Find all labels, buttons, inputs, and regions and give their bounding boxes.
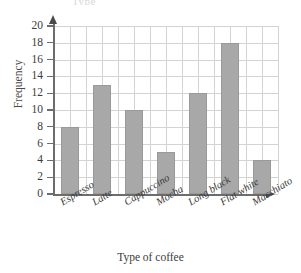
y-tick-label-wrap: 10 [19, 104, 43, 116]
gridline-vertical [150, 26, 151, 194]
y-tick-mark [47, 25, 54, 26]
y-tick-label: 12 [19, 87, 43, 99]
x-axis-title: Type of coffee [0, 251, 301, 263]
bar-chart-figure: Type Frequency 02468101214161820 Espress… [0, 0, 301, 273]
bar [93, 85, 111, 194]
y-tick-mark [47, 177, 54, 178]
y-tick-label: 20 [19, 20, 43, 32]
y-tick-label-wrap: 16 [19, 54, 43, 66]
y-tick-label: 0 [19, 188, 43, 200]
y-tick-label: 8 [19, 121, 43, 133]
gridline-vertical [246, 26, 247, 194]
y-tick-label: 14 [19, 70, 43, 82]
gridline-vertical [182, 26, 183, 194]
bar [189, 93, 207, 194]
y-tick-mark [47, 76, 54, 77]
bar [221, 43, 239, 194]
y-tick-mark [47, 126, 54, 127]
y-tick-label: 16 [19, 54, 43, 66]
y-tick-label-wrap: 2 [19, 171, 43, 183]
y-tick-mark [47, 160, 54, 161]
gridline-vertical [86, 26, 87, 194]
y-tick-mark [47, 59, 54, 60]
y-tick-label-wrap: 18 [19, 37, 43, 49]
arrow-up-icon [49, 15, 57, 24]
y-tick-label: 6 [19, 138, 43, 150]
gridline-vertical [118, 26, 119, 194]
y-tick-label: 4 [19, 154, 43, 166]
y-tick-mark [47, 93, 54, 94]
y-tick-label: 10 [19, 104, 43, 116]
y-tick-label-wrap: 14 [19, 70, 43, 82]
y-tick-mark [47, 42, 54, 43]
bar [61, 127, 79, 194]
y-tick-label: 2 [19, 171, 43, 183]
y-tick-label-wrap: 8 [19, 121, 43, 133]
y-tick-label-wrap: 6 [19, 138, 43, 150]
clipped-title-remnant: Type [72, 0, 132, 5]
y-tick-label: 18 [19, 37, 43, 49]
y-tick-mark [47, 193, 54, 194]
y-tick-label-wrap: 12 [19, 87, 43, 99]
y-tick-label-wrap: 4 [19, 154, 43, 166]
y-tick-label-wrap: 20 [19, 20, 43, 32]
y-tick-mark [47, 143, 54, 144]
y-tick-mark [47, 109, 54, 110]
bar [125, 110, 143, 194]
y-tick-label-wrap: 0 [19, 188, 43, 200]
gridline-vertical [278, 26, 279, 194]
gridline-vertical [214, 26, 215, 194]
